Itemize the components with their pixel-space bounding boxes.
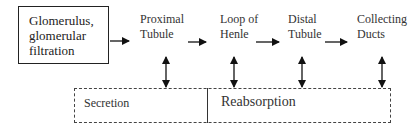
region-divider bbox=[207, 88, 208, 123]
double-arrow-icon bbox=[166, 57, 382, 87]
region-secretion-label: Secretion bbox=[84, 96, 129, 111]
region-reabsorption-label: Reabsorption bbox=[221, 94, 296, 110]
arrow-right-icon bbox=[110, 41, 347, 42]
